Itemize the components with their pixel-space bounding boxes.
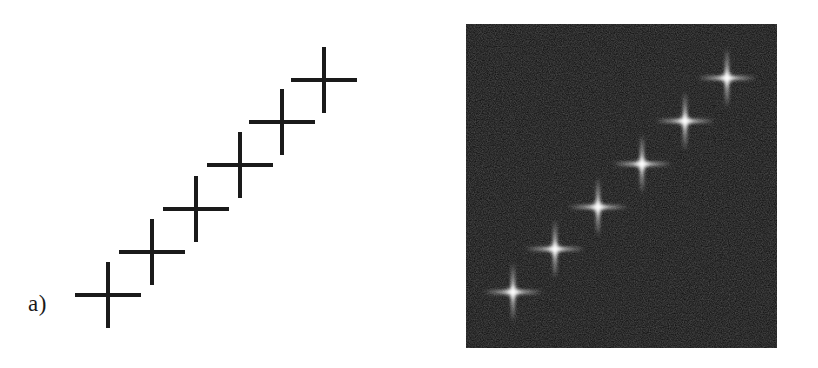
panel-a-ideal-pattern: a) — [0, 0, 409, 368]
cross-arm-vertical — [194, 176, 198, 242]
psf-core — [635, 157, 650, 172]
panel-a-drawing — [0, 0, 409, 368]
cross-arm-vertical — [322, 47, 326, 113]
panel-b-noise-canvas — [466, 24, 777, 348]
psf-core — [548, 242, 563, 257]
figure-root: a) — [0, 0, 818, 368]
cross-arm-vertical — [106, 262, 110, 328]
cross-arm-vertical — [238, 132, 242, 198]
panel-a-caption: a) — [28, 292, 47, 315]
panel-b-noisy-image: b) — [409, 0, 818, 368]
psf-core — [678, 114, 693, 129]
psf-core — [591, 200, 606, 215]
psf-core — [720, 71, 735, 86]
panel-a-background — [0, 0, 409, 368]
psf-core — [506, 285, 521, 300]
cross-arm-vertical — [150, 219, 154, 285]
panel-b-image-frame — [466, 24, 777, 348]
cross-arm-vertical — [280, 89, 284, 155]
